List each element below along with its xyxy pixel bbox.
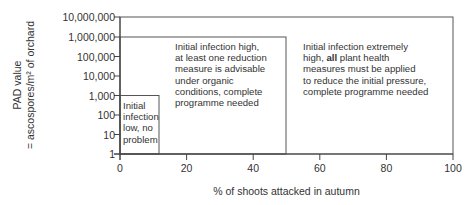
x-tick-label: 80: [381, 162, 393, 174]
y-tick-label: 1: [109, 148, 115, 160]
y-axis-title: PAD value = ascospores/m² of orchard: [4, 10, 44, 160]
y-tick-label: 100: [97, 109, 115, 121]
y-axis-title-line2: = ascospores/m² of orchard: [24, 21, 37, 149]
pad-threshold-chart: PAD value = ascospores/m² of orchard 1 1…: [0, 0, 475, 205]
y-axis-title-line1: PAD value: [11, 21, 24, 149]
x-tick-label: 100: [444, 162, 462, 174]
x-ticks: [120, 154, 453, 160]
y-tick-label: 1,000: [89, 90, 115, 102]
y-tick-label: 10,000,000: [62, 11, 115, 23]
zone-high-annotation: Initial infection high, at least one red…: [175, 41, 267, 108]
x-axis-title: % of shoots attacked in autumn: [120, 185, 453, 197]
y-tick-label: 10,000: [83, 70, 115, 82]
x-tick-label: 20: [181, 162, 193, 174]
emphasis-all: all: [326, 52, 337, 63]
zone-low-annotation: Initial infection low, no problem: [123, 100, 159, 145]
x-tick-label: 60: [314, 162, 326, 174]
y-tick-label: 100,000: [77, 51, 115, 63]
y-tick-label: 1,000,000: [68, 31, 115, 43]
x-tick-label: 0: [117, 162, 123, 174]
x-tick-label: 40: [247, 162, 259, 174]
y-tick-label: 10: [103, 129, 115, 141]
zone-extreme-annotation: Initial infection extremely high, all pl…: [303, 41, 428, 97]
